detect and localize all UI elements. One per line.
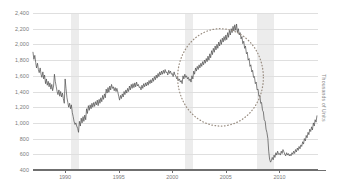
- x-axis-ticks: 19901995200020052010: [0, 170, 349, 184]
- x-axis-tick-label: 2000: [166, 174, 178, 180]
- series-line-housing-starts: [33, 24, 317, 162]
- x-axis-tick-label: 2010: [273, 174, 285, 180]
- y-axis-tick-label: 2,400: [15, 10, 29, 16]
- y-axis-tick-label: 2,200: [15, 26, 29, 32]
- x-axis-tick-mark: [119, 170, 120, 173]
- x-axis-tick-mark: [172, 170, 173, 173]
- y-axis-title: Thousands of Units: [320, 74, 326, 121]
- y-axis-tick-label: 1,800: [15, 57, 29, 63]
- y-axis-tick-label: 2,000: [15, 41, 29, 47]
- dotted-circle-annotation: [178, 29, 264, 126]
- y-axis-tick-label: 1,000: [15, 120, 29, 126]
- y-axis-tick-label: 1,600: [15, 73, 29, 79]
- x-axis-tick-mark: [279, 170, 280, 173]
- plot-area: [33, 13, 318, 170]
- y-axis-tick-label: 800: [20, 136, 29, 142]
- x-axis-tick-mark: [226, 170, 227, 173]
- series-svg: [33, 13, 318, 170]
- y-axis-tick-label: 1,400: [15, 89, 29, 95]
- x-axis-tick-label: 1995: [113, 174, 125, 180]
- y-axis-tick-label: 1,200: [15, 104, 29, 110]
- chart-figure: 4006008001,0001,2001,4001,6001,8002,0002…: [0, 0, 349, 195]
- x-axis-tick-label: 2005: [220, 174, 232, 180]
- y-axis-tick-label: 600: [20, 151, 29, 157]
- x-axis-tick-mark: [65, 170, 66, 173]
- y-axis-ticks: 4006008001,0001,2001,4001,6001,8002,0002…: [0, 13, 29, 170]
- x-axis-tick-label: 1990: [59, 174, 71, 180]
